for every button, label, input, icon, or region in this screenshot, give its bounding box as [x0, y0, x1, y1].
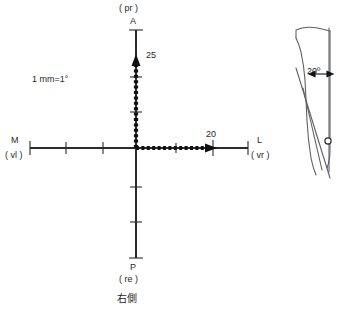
anatomical-inset-sketch	[296, 27, 331, 178]
inset-bone-left-contour	[296, 38, 316, 175]
coordinate-diagram	[0, 0, 337, 312]
inset-angle-arrow-right-head	[327, 71, 333, 76]
vertical-vector-value-label: 25	[146, 50, 156, 60]
axis-label-lateral-sub: ( vr )	[251, 150, 270, 160]
axis-label-medial-sub: ( vl )	[5, 150, 23, 160]
figure-caption: 右側	[117, 294, 137, 304]
axis-label-posterior-sub: ( re )	[119, 274, 138, 284]
inset-shaft-line	[303, 88, 322, 170]
inset-angle-label: 20º	[307, 66, 320, 76]
inset-bone-top-contour	[296, 27, 330, 38]
axis-label-lateral: L	[257, 135, 262, 145]
axis-label-anterior-sub: ( pr )	[119, 3, 138, 13]
horizontal-vector-arrowhead	[205, 144, 217, 153]
axis-label-anterior: A	[130, 16, 136, 26]
axis-label-posterior: P	[130, 262, 136, 272]
inset-center-marker-circle	[325, 138, 331, 144]
inset-oblique-axis-line	[296, 68, 330, 178]
horizontal-vector-value-label: 20	[206, 129, 216, 139]
vertical-vector-arrowhead	[132, 54, 141, 66]
scale-note: 1 mm=1°	[32, 74, 68, 84]
figure-root: ( pr ) A P ( re ) M ( vl ) L ( vr ) 25 2…	[0, 0, 337, 312]
axis-label-medial: M	[11, 135, 19, 145]
